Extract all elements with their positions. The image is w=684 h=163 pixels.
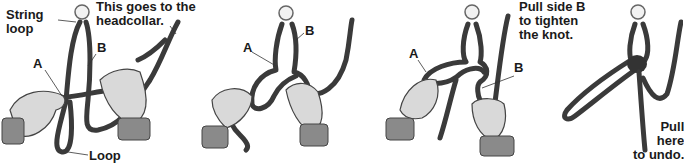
- label-b: B: [514, 61, 523, 75]
- step-2-panel: A B: [200, 0, 380, 163]
- tie-ring-icon: [465, 5, 479, 19]
- step-1-panel: String loop This goes to the headcollar.…: [0, 0, 200, 163]
- tie-ring-icon: [631, 5, 645, 19]
- loop-label: Loop: [89, 149, 121, 163]
- step-3-illustration: [380, 0, 540, 163]
- tie-ring-icon: [75, 5, 89, 19]
- label-a: A: [243, 41, 252, 55]
- label-a: A: [33, 57, 42, 71]
- label-b: B: [305, 24, 314, 38]
- knot-icon: [627, 55, 647, 73]
- step-3-panel: A B: [380, 0, 540, 163]
- string-loop-label: String loop: [6, 8, 44, 36]
- step-2-illustration: [200, 0, 380, 163]
- undo-instruction-label: Pull here to undo.: [633, 120, 684, 162]
- headcollar-label: This goes to the headcollar.: [96, 0, 196, 28]
- label-b: B: [97, 41, 106, 55]
- label-a: A: [409, 47, 418, 61]
- tie-ring-icon: [279, 6, 293, 20]
